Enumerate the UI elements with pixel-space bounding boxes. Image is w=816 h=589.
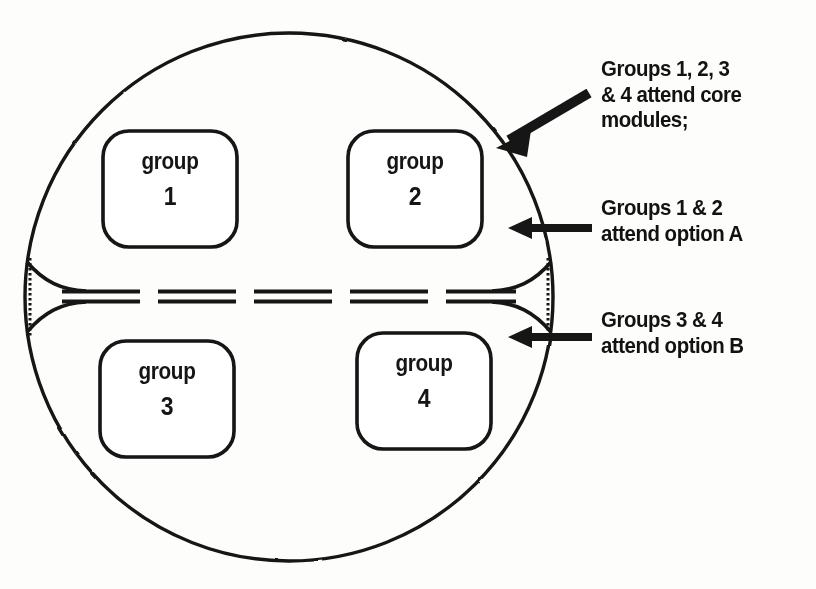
annotation-option-b: Groups 3 & 4 attend option B	[601, 308, 802, 359]
group-box-3-label: group 3	[100, 360, 234, 419]
arrow-option-a-icon	[508, 217, 592, 239]
annotation-core-modules: Groups 1, 2, 3 & 4 attend core modules;	[601, 57, 802, 134]
group-3-number: 3	[105, 394, 228, 419]
group-2-word: group	[355, 150, 476, 173]
group-3-word: group	[107, 360, 228, 383]
group-box-2-label: group 2	[348, 150, 482, 209]
group-1-word: group	[110, 150, 231, 173]
group-1-number: 1	[108, 184, 231, 209]
cohort-circle	[25, 33, 553, 561]
annotation-option-a: Groups 1 & 2 attend option A	[601, 196, 802, 247]
group-4-number: 4	[362, 386, 485, 411]
group-box-4-label: group 4	[357, 352, 491, 411]
figure-root: group 1 group 2 group 3 group 4 Groups 1…	[0, 0, 816, 589]
group-box-1-label: group 1	[103, 150, 237, 209]
group-2-number: 2	[353, 184, 476, 209]
divider-line	[27, 258, 551, 338]
group-4-word: group	[364, 352, 485, 375]
arrow-core-modules-icon	[496, 93, 589, 157]
